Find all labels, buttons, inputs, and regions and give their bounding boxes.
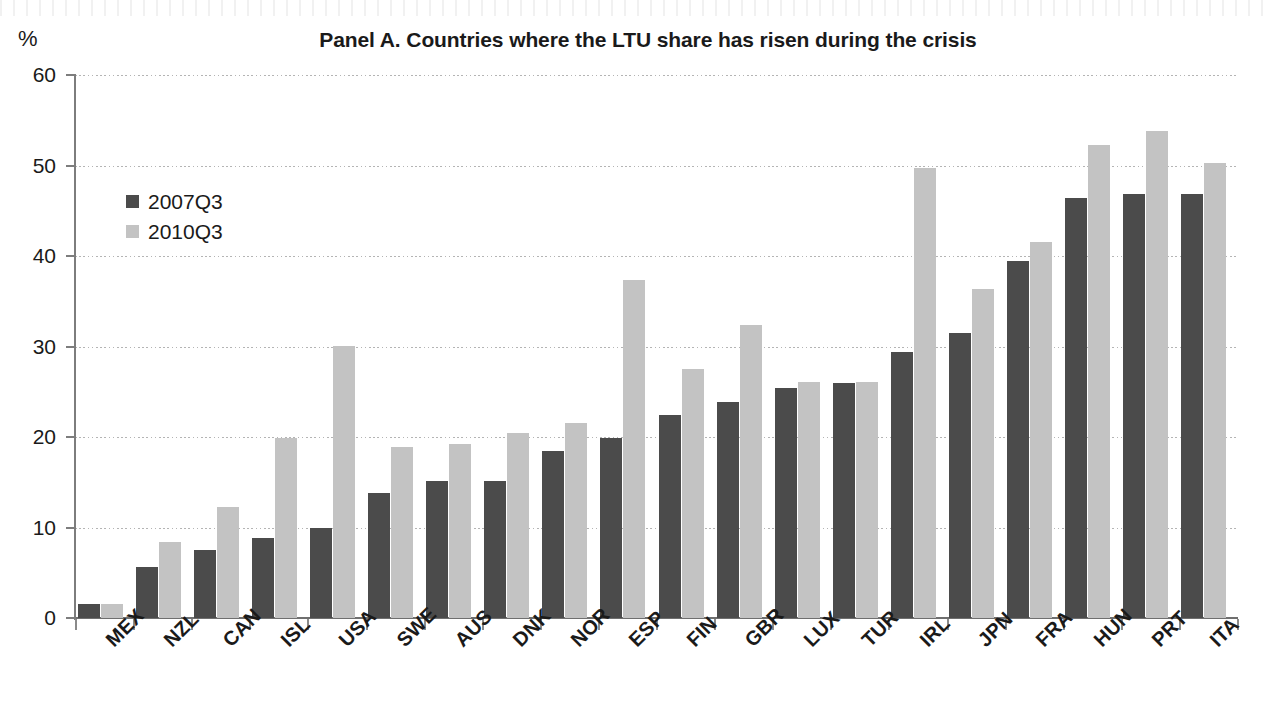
bar-nzl-2010q3 — [159, 542, 181, 618]
bar-fin-2007q3 — [659, 415, 681, 618]
bar-ita-2010q3 — [1204, 163, 1226, 618]
bar-usa-2007q3 — [310, 528, 332, 618]
legend-item[interactable]: 2010Q3 — [126, 216, 223, 246]
bar-dnk-2007q3 — [484, 481, 506, 618]
bar-esp-2010q3 — [623, 280, 645, 618]
y-axis-tick-mark — [66, 255, 76, 257]
bar-swe-2010q3 — [391, 447, 413, 618]
bar-lux-2010q3 — [798, 382, 820, 618]
y-axis-tick-label: 50 — [12, 155, 56, 176]
y-axis-tick-label: 30 — [12, 336, 56, 357]
bar-jpn-2007q3 — [949, 333, 971, 618]
y-axis-tick-mark — [66, 527, 76, 529]
bar-hun-2007q3 — [1065, 198, 1087, 618]
y-axis-tick-label: 40 — [12, 245, 56, 266]
bar-irl-2007q3 — [891, 352, 913, 618]
bar-mex-2007q3 — [78, 604, 100, 618]
bar-nor-2007q3 — [542, 451, 564, 618]
bar-swe-2007q3 — [368, 493, 390, 618]
y-axis-tick-label: 20 — [12, 426, 56, 447]
bar-hun-2010q3 — [1088, 145, 1110, 618]
gridline — [75, 75, 1237, 76]
bar-fra-2010q3 — [1030, 242, 1052, 618]
bar-isl-2007q3 — [252, 538, 274, 618]
bar-jpn-2010q3 — [972, 289, 994, 618]
bar-fin-2010q3 — [682, 369, 704, 618]
bar-can-2007q3 — [194, 550, 216, 618]
y-axis-tick-label: 0 — [12, 607, 56, 628]
bar-nor-2010q3 — [565, 423, 587, 618]
legend-item[interactable]: 2007Q3 — [126, 186, 223, 216]
bar-isl-2010q3 — [275, 438, 297, 618]
y-axis-tick-mark — [66, 165, 76, 167]
bar-aus-2010q3 — [449, 444, 471, 618]
chart-legend: 2007Q3 2010Q3 — [126, 186, 223, 246]
bar-gbr-2007q3 — [717, 402, 739, 618]
legend-swatch-2007q3 — [126, 195, 139, 208]
bar-prt-2010q3 — [1146, 131, 1168, 618]
gridline — [75, 347, 1237, 348]
bar-aus-2007q3 — [426, 481, 448, 618]
bar-prt-2007q3 — [1123, 194, 1145, 618]
y-axis-tick-mark — [66, 436, 76, 438]
y-axis-tick-mark — [66, 74, 76, 76]
bar-lux-2007q3 — [775, 388, 797, 618]
bar-gbr-2010q3 — [740, 325, 762, 618]
x-axis-tick-mark — [75, 619, 77, 630]
y-axis-tick-label: 10 — [12, 517, 56, 538]
gridline — [75, 256, 1237, 257]
bar-fra-2007q3 — [1007, 261, 1029, 618]
legend-swatch-2010q3 — [126, 225, 139, 238]
chart-plot-wrapper: 0102030405060 MEXNZLCANISLUSASWEAUSDNKNO… — [0, 0, 1272, 705]
bar-dnk-2010q3 — [507, 433, 529, 618]
gridline — [75, 166, 1237, 167]
bar-ita-2007q3 — [1181, 194, 1203, 618]
bar-tur-2010q3 — [856, 382, 878, 618]
y-axis-tick-label: 60 — [12, 64, 56, 85]
bar-tur-2007q3 — [833, 383, 855, 618]
gridline — [75, 437, 1237, 438]
bar-usa-2010q3 — [333, 346, 355, 618]
y-axis-tick-mark — [66, 346, 76, 348]
bar-esp-2007q3 — [600, 438, 622, 618]
bar-irl-2010q3 — [914, 168, 936, 618]
gridline — [75, 528, 1237, 529]
legend-label: 2010Q3 — [148, 221, 223, 242]
legend-label: 2007Q3 — [148, 191, 223, 212]
bar-can-2010q3 — [217, 507, 239, 618]
